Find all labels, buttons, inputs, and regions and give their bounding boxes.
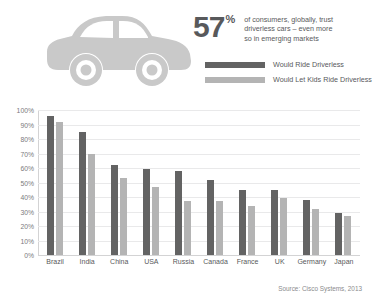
stat-description-line-3: so in emerging markets	[244, 34, 333, 43]
x-axis-tick-usa: USA	[135, 258, 167, 265]
x-axis-tick-uk: UK	[264, 258, 296, 265]
gridline-0	[38, 255, 360, 256]
bar-india-series-2	[88, 154, 95, 256]
bar-group-japan	[328, 110, 360, 255]
bar-usa-series-2	[152, 187, 159, 255]
x-axis-tick-canada: Canada	[199, 258, 231, 265]
bar-russia-series-1	[175, 171, 182, 255]
x-axis-tick-france: France	[232, 258, 264, 265]
bar-russia-series-2	[184, 201, 191, 255]
y-axis-tick-100%: 100%	[17, 107, 34, 114]
bar-groups	[39, 110, 360, 255]
y-axis-tick-80%: 80%	[20, 136, 34, 143]
stat-description-line-1: of consumers, globally, trust	[244, 15, 333, 24]
bar-india-series-1	[79, 132, 86, 255]
bar-france-series-2	[248, 206, 255, 255]
bar-uk-series-2	[280, 198, 287, 255]
y-axis-tick-30%: 30%	[20, 208, 34, 215]
stat-number: 57	[193, 12, 224, 42]
legend-label-would-let-kids-ride-driverless: Would Let Kids Ride Driverless	[273, 75, 372, 84]
bar-group-russia	[167, 110, 199, 255]
header: 57 % of consumers, globally, trust drive…	[0, 0, 375, 100]
bar-group-brazil	[39, 110, 71, 255]
bar-group-canada	[199, 110, 231, 255]
y-axis-tick-70%: 70%	[20, 150, 34, 157]
x-axis-tick-russia: Russia	[167, 258, 199, 265]
bar-group-germany	[296, 110, 328, 255]
bar-canada-series-1	[207, 180, 214, 255]
bar-uk-series-1	[271, 190, 278, 255]
percent-symbol: %	[225, 13, 235, 25]
legend-item-would-ride-driverless: Would Ride Driverless	[205, 60, 372, 69]
y-axis-tick-10%: 10%	[20, 237, 34, 244]
x-axis-tick-japan: Japan	[328, 258, 360, 265]
x-axis-tick-china: China	[103, 258, 135, 265]
bar-germany-series-1	[303, 200, 310, 255]
y-axis-tick-40%: 40%	[20, 194, 34, 201]
legend-label-would-ride-driverless: Would Ride Driverless	[273, 60, 344, 69]
y-axis-tick-20%: 20%	[20, 223, 34, 230]
bar-japan-series-1	[335, 213, 342, 255]
bar-group-uk	[264, 110, 296, 255]
legend-swatch-light	[205, 77, 265, 83]
x-axis-labels: BrazilIndiaChinaUSARussiaCanadaFranceUKG…	[39, 258, 360, 265]
bar-brazil-series-1	[47, 116, 54, 255]
stat-description-line-2: driverless cars – even more	[244, 24, 333, 33]
x-axis-tick-brazil: Brazil	[39, 258, 71, 265]
bar-germany-series-2	[312, 209, 319, 255]
y-axis-tick-60%: 60%	[20, 165, 34, 172]
car-silhouette-icon	[44, 12, 194, 92]
stat-callout: 57 % of consumers, globally, trust drive…	[193, 12, 373, 43]
legend-swatch-dark	[205, 62, 265, 68]
stat-description: of consumers, globally, trust driverless…	[244, 15, 333, 43]
bar-france-series-1	[239, 190, 246, 255]
x-axis-tick-india: India	[71, 258, 103, 265]
chart-legend: Would Ride Driverless Would Let Kids Rid…	[205, 60, 372, 90]
y-axis-tick-50%: 50%	[20, 179, 34, 186]
bar-group-usa	[135, 110, 167, 255]
bar-group-china	[103, 110, 135, 255]
y-axis-labels: 0%10%20%30%40%50%60%70%80%90%100%	[0, 110, 34, 255]
bar-japan-series-2	[344, 216, 351, 255]
bar-china-series-1	[111, 165, 118, 255]
bar-group-india	[71, 110, 103, 255]
bar-usa-series-1	[143, 169, 150, 255]
bar-china-series-2	[120, 178, 127, 255]
bar-canada-series-2	[216, 201, 223, 255]
legend-item-would-let-kids-ride-driverless: Would Let Kids Ride Driverless	[205, 75, 372, 84]
y-axis-tick-90%: 90%	[20, 121, 34, 128]
x-axis-tick-germany: Germany	[296, 258, 328, 265]
bar-group-france	[232, 110, 264, 255]
source-attribution: Source: Cisco Systems, 2013	[278, 285, 362, 292]
bar-chart: 0%10%20%30%40%50%60%70%80%90%100% Brazil…	[0, 102, 375, 277]
y-axis-tick-0%: 0%	[24, 252, 34, 259]
bar-brazil-series-2	[56, 122, 63, 255]
